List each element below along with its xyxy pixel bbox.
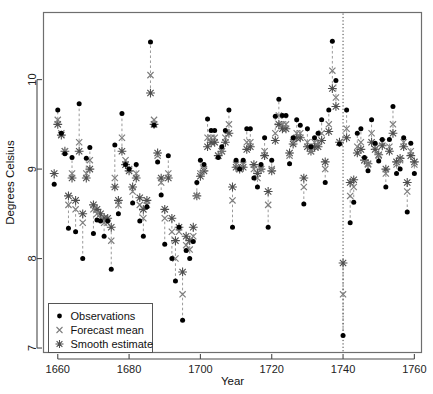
- smooth-estimate-point: [107, 223, 116, 232]
- observation-point: [398, 167, 403, 172]
- legend: ObservationsForecast meanSmooth estimate: [49, 304, 154, 353]
- observation-point: [166, 153, 171, 158]
- smooth-estimate-point: [171, 236, 180, 245]
- observation-point: [237, 167, 242, 172]
- observation-point: [269, 158, 274, 163]
- observation-point: [119, 111, 124, 116]
- observation-point: [366, 168, 371, 173]
- observation-point: [155, 159, 160, 164]
- y-tick-label: 10: [26, 73, 38, 85]
- forecast-mean-point: [272, 130, 278, 136]
- smooth-estimate-point: [339, 259, 348, 268]
- smooth-estimate-point: [118, 147, 127, 156]
- observation-point: [255, 184, 260, 189]
- observation-point: [230, 225, 235, 230]
- smooth-estimate-point: [110, 183, 119, 192]
- x-tick-label: 1660: [46, 363, 70, 375]
- observation-point: [251, 176, 256, 181]
- observation-point: [205, 116, 210, 121]
- observation-point: [408, 141, 413, 146]
- smooth-estimate-point: [114, 196, 123, 205]
- smooth-estimate-point: [342, 133, 351, 142]
- observation-point: [308, 144, 313, 149]
- observation-point: [351, 200, 356, 205]
- observation-point: [333, 78, 338, 83]
- observation-point: [294, 117, 299, 122]
- observation-point: [291, 135, 296, 140]
- smooth-estimate-point: [349, 175, 358, 184]
- observation-point: [130, 201, 135, 206]
- smooth-estimate-point: [381, 165, 390, 174]
- observation-point: [152, 123, 157, 128]
- forecast-mean-point: [169, 229, 175, 235]
- smooth-estimate-point: [82, 174, 91, 183]
- smooth-estimate-point: [267, 166, 276, 175]
- observation-point: [344, 108, 349, 113]
- observation-point: [383, 184, 388, 189]
- forecast-mean-point: [162, 215, 168, 221]
- observation-point: [62, 151, 67, 156]
- observation-point: [273, 114, 278, 119]
- observation-point: [330, 39, 335, 44]
- legend-label-forecast-mean: Forecast mean: [71, 324, 144, 336]
- observation-point: [283, 113, 288, 118]
- forecast-mean-point: [137, 202, 143, 208]
- observation-point: [380, 137, 385, 142]
- observation-point: [373, 141, 378, 146]
- observation-point: [98, 218, 103, 223]
- observation-point: [287, 161, 292, 166]
- observation-point: [376, 159, 381, 164]
- smooth-estimate-point: [396, 154, 405, 163]
- smooth-estimate-point: [78, 209, 87, 218]
- observation-point: [337, 142, 342, 147]
- smooth-estimate-point: [246, 142, 255, 151]
- observation-point: [412, 171, 417, 176]
- observation-point: [298, 123, 303, 128]
- smooth-estimate-point: [64, 192, 73, 201]
- smooth-estimate-point: [146, 89, 155, 98]
- observation-point: [59, 131, 64, 136]
- forecast-mean-point: [404, 188, 410, 194]
- x-tick-label: 1680: [117, 363, 141, 375]
- observation-point: [173, 278, 178, 283]
- observation-point: [355, 131, 360, 136]
- observation-point: [70, 155, 75, 160]
- smooth-estimate-point: [53, 120, 62, 129]
- observation-point: [112, 142, 117, 147]
- observation-point: [159, 193, 164, 198]
- observation-point: [180, 318, 185, 323]
- observation-point: [169, 256, 174, 261]
- observation-point: [134, 162, 139, 167]
- x-tick-label: 1720: [259, 363, 283, 375]
- observation-point: [223, 128, 228, 133]
- observation-point: [401, 135, 406, 140]
- legend-label-observations: Observations: [71, 310, 136, 322]
- x-tick-label: 1740: [331, 363, 355, 375]
- observation-point: [137, 218, 142, 223]
- chart-root: 16601680170017201740176078910YearDegrees…: [0, 0, 433, 394]
- smooth-estimate-point: [178, 268, 187, 277]
- smooth-estimate-point: [85, 165, 94, 174]
- observation-point: [259, 162, 264, 167]
- forecast-mean-point: [179, 291, 185, 297]
- observation-point: [369, 117, 374, 122]
- smooth-estimate-point: [321, 158, 330, 167]
- series-forecast-mean: [55, 68, 418, 298]
- smooth-estimate-point: [403, 178, 412, 187]
- legend-label-smooth-estimate: Smooth estimate: [71, 338, 154, 350]
- observation-point: [55, 108, 60, 113]
- legend-marker-observations: [57, 314, 62, 319]
- observation-point: [148, 40, 153, 45]
- smooth-estimate-point: [143, 196, 152, 205]
- observation-point: [91, 231, 96, 236]
- observation-point: [316, 131, 321, 136]
- smooth-estimate-point: [71, 196, 80, 205]
- smooth-estimate-point: [264, 187, 273, 196]
- observation-point: [84, 156, 89, 161]
- observation-point: [116, 211, 121, 216]
- smooth-estimate-point: [228, 183, 237, 192]
- observation-point: [216, 155, 221, 160]
- observation-point: [187, 256, 192, 261]
- legend-marker-smooth-estimate: [56, 340, 64, 348]
- smooth-estimate-point: [50, 169, 59, 178]
